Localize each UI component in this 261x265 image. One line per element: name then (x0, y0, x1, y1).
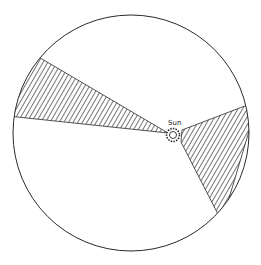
diagram-canvas: Sun (0, 0, 261, 265)
sun-label: Sun (168, 119, 181, 127)
sun-icon (167, 129, 180, 142)
right-shaded-wedge (181, 101, 258, 222)
left-shaded-wedge (8, 52, 168, 133)
